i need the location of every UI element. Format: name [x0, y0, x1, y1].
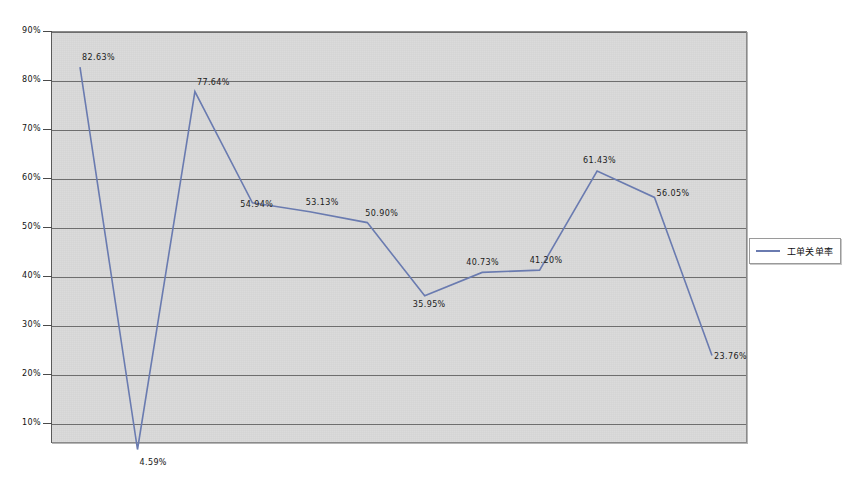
series-line-chart [0, 0, 860, 485]
data-point-label: 77.64% [197, 78, 230, 87]
legend-label: 工单关单率 [787, 245, 833, 258]
data-point-label: 35.95% [413, 300, 446, 309]
data-point-label: 50.90% [365, 209, 398, 218]
data-point-label: 40.73% [466, 258, 499, 267]
data-point-label: 61.43% [583, 156, 616, 165]
data-point-label: 23.76% [714, 352, 747, 361]
legend-color-swatch [756, 250, 780, 252]
data-point-label: 82.63% [82, 53, 115, 62]
legend: 工单关单率 [749, 238, 841, 264]
data-point-label: 4.59% [139, 458, 166, 467]
data-point-label: 54.94% [240, 200, 273, 209]
data-point-label: 53.13% [306, 198, 339, 207]
chart-screenshot: 90%80%70%60%50%40%30%20%10% 82.63%4.59%7… [0, 0, 860, 485]
series-line-gongdan [80, 67, 712, 449]
data-point-label: 41.20% [530, 256, 563, 265]
data-point-label: 56.05% [657, 189, 690, 198]
